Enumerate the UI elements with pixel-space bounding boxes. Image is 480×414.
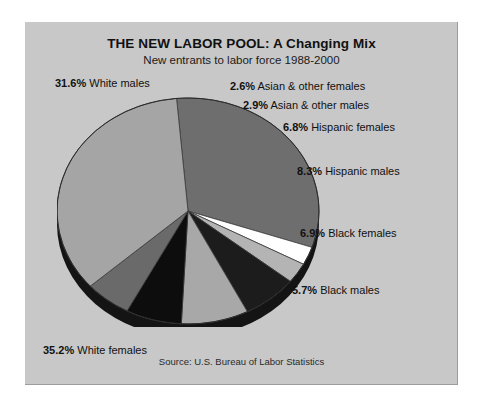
slice-label-hispanic-females: 6.8% Hispanic females [283, 121, 395, 133]
chart-page: THE NEW LABOR POOL: A Changing Mix New e… [0, 0, 480, 414]
slice-name-white-females: White females [77, 344, 147, 356]
slice-name-asian-other-males: Asian & other males [271, 99, 369, 111]
slice-name-black-males: Black males [320, 284, 379, 296]
chart-title: THE NEW LABOR POOL: A Changing Mix [25, 36, 458, 51]
slice-name-hispanic-females: Hispanic females [311, 121, 395, 133]
slice-value-hispanic-females: 6.8% [283, 121, 308, 133]
slice-label-white-males: 31.6% White males [55, 77, 150, 89]
slice-label-asian-other-males: 2.9% Asian & other males [243, 99, 369, 111]
slice-label-white-females: 35.2% White females [43, 344, 147, 356]
slice-label-black-males: 5.7% Black males [292, 284, 379, 296]
slice-name-hispanic-males: Hispanic males [325, 165, 400, 177]
slice-label-asian-other-females: 2.6% Asian & other females [230, 80, 365, 92]
chart-panel: THE NEW LABOR POOL: A Changing Mix New e… [25, 22, 458, 385]
chart-subtitle: New entrants to labor force 1988-2000 [25, 54, 458, 66]
slice-value-black-males: 5.7% [292, 284, 317, 296]
slice-label-hispanic-males: 8.3% Hispanic males [297, 165, 400, 177]
slice-value-black-females: 6.9% [300, 227, 325, 239]
slice-label-black-females: 6.9% Black females [300, 227, 397, 239]
slice-name-black-females: Black females [328, 227, 396, 239]
slice-value-asian-other-males: 2.9% [243, 99, 268, 111]
slice-name-asian-other-females: Asian & other females [258, 80, 366, 92]
slice-value-asian-other-females: 2.6% [230, 80, 255, 92]
slice-value-white-males: 31.6% [55, 77, 86, 89]
slice-value-white-females: 35.2% [43, 344, 74, 356]
slice-value-hispanic-males: 8.3% [297, 165, 322, 177]
chart-source: Source: U.S. Bureau of Labor Statistics [25, 356, 458, 367]
slice-name-white-males: White males [89, 77, 150, 89]
